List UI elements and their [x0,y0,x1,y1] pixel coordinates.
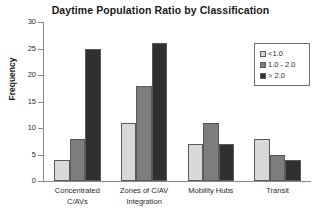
legend-item: <1.0 [260,48,305,59]
bar [188,144,204,181]
y-axis-tick-label: 0 [12,177,36,185]
bar [136,86,152,181]
x-axis-category-label-line: Mobility Hubs [176,186,246,197]
y-axis-tick-label: 30 [12,18,36,26]
x-axis-category-label-line: Integration [109,197,179,208]
y-axis-tick-label: 5 [12,151,36,159]
bar [70,139,86,181]
bar [85,49,101,182]
chart-title: Daytime Population Ratio by Classificati… [0,4,321,16]
legend-item: > 2.0 [260,70,305,81]
bar [254,139,270,181]
y-axis-tick-label: 10 [12,124,36,132]
bar [270,155,286,182]
x-axis-category-label: ConcentratedC/AVs [42,186,112,207]
legend-swatch-icon [260,62,266,68]
legend-label: > 2.0 [268,72,285,80]
x-axis-category-label-line: Zones of C/AV [109,186,179,197]
bar [203,123,219,181]
x-axis-category-label: Mobility Hubs [176,186,246,197]
y-axis-tick-label: 20 [12,71,36,79]
bar [54,160,70,181]
legend-swatch-icon [260,73,266,79]
x-axis-category-label-line: Transit [243,186,313,197]
x-axis-category-label-line: C/AVs [42,197,112,208]
legend-swatch-icon [260,51,266,57]
legend-item: 1.0 - 2.0 [260,59,305,70]
bar [219,144,235,181]
x-axis-line [43,181,311,182]
x-axis-category-label: Transit [243,186,313,197]
legend-label: <1.0 [268,50,283,58]
bar-chart: Daytime Population Ratio by Classificati… [0,0,321,218]
chart-legend: <1.01.0 - 2.0> 2.0 [254,43,310,86]
x-axis-category-label-line: Concentrated [42,186,112,197]
bar [152,43,168,181]
bar [285,160,301,181]
y-axis-tick-label: 25 [12,45,36,53]
x-axis-category-label: Zones of C/AVIntegration [109,186,179,207]
y-axis-tick-label: 15 [12,98,36,106]
legend-label: 1.0 - 2.0 [268,61,296,69]
bar [121,123,137,181]
